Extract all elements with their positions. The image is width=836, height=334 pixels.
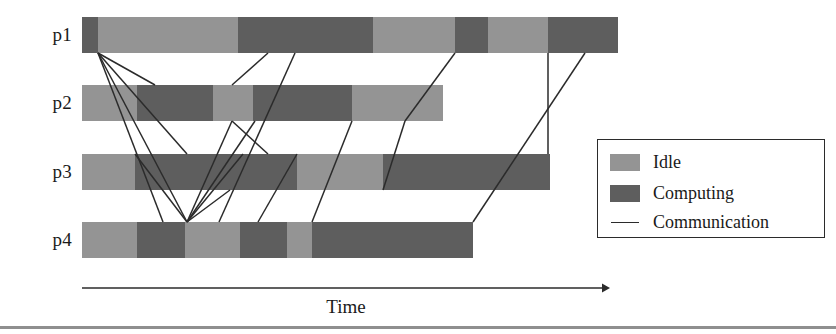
gantt-figure: p1p2p3p4 Time Idle Computing Communicati… <box>0 0 836 334</box>
legend-item-idle: Idle <box>610 148 681 176</box>
legend-label-communication: Communication <box>653 212 769 233</box>
legend-label-idle: Idle <box>653 152 681 173</box>
legend-label-computing: Computing <box>653 183 734 204</box>
right-arrow-icon <box>602 284 610 293</box>
legend-item-computing: Computing <box>610 179 734 207</box>
legend-swatch-communication <box>610 214 640 231</box>
legend-swatch-computing <box>610 185 640 202</box>
time-axis-label: Time <box>0 296 692 318</box>
legend-swatch-idle <box>610 154 640 171</box>
legend: Idle Computing Communication <box>597 139 825 238</box>
bottom-rule <box>0 326 836 329</box>
legend-item-communication: Communication <box>610 208 769 236</box>
